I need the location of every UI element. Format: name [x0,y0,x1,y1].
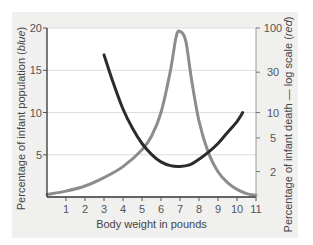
x-tick-label: 11 [250,203,261,215]
y-right-tick-label: 2 [270,166,276,178]
y-right-axis-title: Percentage of infant death — log scale (… [282,17,294,233]
y-left-tick-label: 5 [36,149,42,161]
x-tick-label: 5 [139,203,145,215]
x-tick-label: 3 [101,203,107,215]
y-right-tick-label: 30 [267,66,279,78]
y-right-tick-label: 5 [270,132,276,144]
x-tick-label: 4 [120,203,126,215]
y-right-tick-label: 10 [267,107,279,119]
x-tick-label: 7 [177,203,183,215]
x-tick-label: 2 [82,203,88,215]
y-left-axis-title: Percentage of infant population (blue) [15,27,27,210]
x-tick-label: 9 [215,203,221,215]
x-tick-label: 1 [63,203,69,215]
chart: 51015202510301001234567891011Body weight… [0,0,313,245]
y-left-tick-label: 15 [30,64,42,76]
y-left-tick-label: 20 [30,22,42,34]
y-right-tick-label: 100 [264,22,282,34]
x-tick-label: 6 [158,203,164,215]
x-axis-title: Body weight in pounds [96,218,207,230]
y-left-tick-label: 10 [30,107,42,119]
x-tick-label: 8 [196,203,202,215]
x-tick-label: 10 [231,203,243,215]
